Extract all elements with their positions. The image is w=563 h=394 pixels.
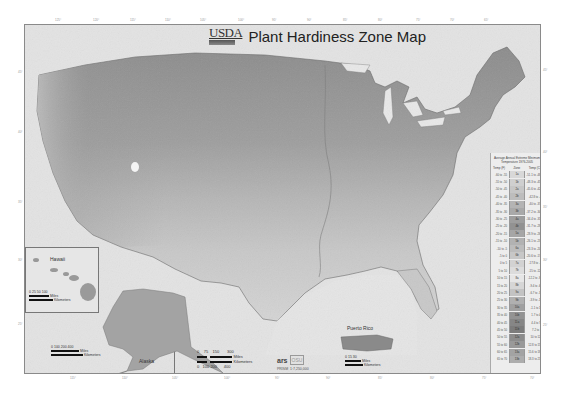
legend-temp-f: 15 to 20 [491,284,509,288]
legend-temp-f: -45 to -40 [491,195,509,199]
legend-temp-f: 20 to 25 [491,291,509,295]
legend-row: -25 to -204b-31.7 to -28.9 [491,223,541,230]
legend-row: -5 to 06b-20.6 to -17.8 [491,252,541,259]
legend-temp-f: -40 to -35 [491,202,509,206]
legend-zone-swatch: 7a [509,260,525,267]
legend-row: 45 to 5011b7.2 to 10 [491,326,541,333]
legend-temp-c: 15.6 to 18.3 [525,350,541,354]
legend-row: 60 to 6513a15.6 to 18.3 [491,348,541,355]
legend-zone-swatch: 5a [509,230,525,237]
legend-row: -15 to -105b-26.1 to -23.3 [491,238,541,245]
alaska-scale: 0 100 200 400 Miles Kilometers [51,345,101,357]
puerto-rico-scale: 0 15 30 Miles Kilometers [345,355,381,367]
legend-row: 15 to 208b-9.4 to -6.7 [491,282,541,289]
legend-zone-swatch: 2b [509,193,525,200]
tick-label: 30° [18,258,23,262]
legend-temp-f: -20 to -15 [491,232,509,236]
legend-temp-c: 12.8 to 15.6 [525,343,541,347]
legend-temp-c: -15 to -12.2 [525,269,541,273]
legend-zone-swatch: 10a [509,304,525,311]
legend-row: -35 to -303b-37.2 to -34.4 [491,208,541,215]
legend-temp-c: -42.8 to -40 [525,195,541,199]
legend-zone-swatch: 3b [509,208,525,215]
legend-temp-c: -31.7 to -28.9 [525,224,541,228]
tick-label: 115° [70,376,76,380]
legend-row: -45 to -402b-42.8 to -40 [491,193,541,200]
tick-label: 105° [200,18,206,22]
legend-zone-swatch: 1a [509,171,525,178]
legend-row: 10 to 158a-12.2 to -9.4 [491,274,541,281]
legend-temp-f: -60 to -55 [491,173,509,177]
legend-zone-swatch: 11b [509,326,525,333]
legend-row: 65 to 7013b18.3 to 21.1 [491,356,541,363]
legend-temp-c: 10 to 12.8 [525,335,541,339]
legend-temp-f: 30 to 35 [491,306,509,310]
hawaii-scale: 0 25 50 100 Miles Kilometers [29,290,71,302]
legend-temp-c: -45.6 to -42.8 [525,187,541,191]
tick-label: 35° [543,205,548,209]
legend-temp-c: 7.2 to 10 [525,328,541,332]
legend-temp-f: 5 to 10 [491,269,509,273]
legend-temp-f: 10 to 15 [491,276,509,280]
legend-temp-c: -12.2 to -9.4 [525,276,541,280]
tick-label: 45° [18,70,23,74]
legend-row: 0 to 57a-17.8 to -15 [491,260,541,267]
legend-zone-swatch: 11a [509,319,525,326]
legend-zone-swatch: 9a [509,289,525,296]
legend-temp-f: -30 to -25 [491,217,509,221]
tick-label: 45° [543,68,548,72]
legend-temp-c: 4.4 to 7.2 [525,321,541,325]
legend-temp-f: 50 to 55 [491,335,509,339]
tick-label: 65° [484,18,489,22]
legend-col-zone: Zone [513,166,520,170]
legend-zone-swatch: 1b [509,179,525,186]
legend-temp-c: -1.1 to 1.7 [525,306,541,310]
legend-temp-f: 40 to 45 [491,321,509,325]
legend-zone-swatch: 13b [509,356,525,363]
legend-zone-swatch: 6a [509,245,525,252]
legend-temp-f: -10 to -5 [491,247,509,251]
legend-temp-f: 65 to 70 [491,357,509,361]
tick-label: 75° [482,376,487,380]
legend-zone-swatch: 2a [509,186,525,193]
tick-label: 70° [530,376,535,380]
legend-temp-f: -25 to -20 [491,224,509,228]
legend-row: 25 to 309b-3.9 to -1.1 [491,297,541,304]
legend-temp-f: 0 to 5 [491,261,509,265]
legend-row: 5 to 107b-15 to -12.2 [491,267,541,274]
tick-label: 115° [130,18,136,22]
legend-zone-swatch: 9b [509,297,525,304]
legend-row: 55 to 6012b12.8 to 15.6 [491,341,541,348]
legend-zone-swatch: 8a [509,275,525,282]
legend-zone-swatch: 4b [509,223,525,230]
legend-temp-c: -17.8 to -15 [525,261,541,265]
legend-zone-swatch: 6b [509,252,525,259]
legend-temp-f: -55 to -50 [491,180,509,184]
tick-label: 105° [172,376,178,380]
legend-temp-c: -20.6 to -17.8 [525,254,541,258]
tick-label: 125° [55,18,61,22]
footer-logos: ars OSU [277,355,304,365]
tick-label: 40° [18,130,23,134]
legend-row: 50 to 5512a10 to 12.8 [491,334,541,341]
tick-label: 90° [326,376,331,380]
legend-row: -30 to -254a-34.4 to -31.7 [491,215,541,222]
tick-label: 75° [416,18,421,22]
legend-temp-f: -15 to -10 [491,239,509,243]
legend-temp-c: -34.4 to -31.7 [525,217,541,221]
ars-logo: ars [277,357,288,364]
legend-row: -60 to -551a-51.1 to -48.3 [491,171,541,178]
tick-label: 85° [378,376,383,380]
legend-temp-c: -26.1 to -23.3 [525,239,541,243]
legend-zone-swatch: 8b [509,282,525,289]
legend-temp-f: 35 to 40 [491,313,509,317]
legend-zone-swatch: 12a [509,334,525,341]
alaska-label: Alaska [139,358,154,364]
legend-temp-f: -5 to 0 [491,254,509,258]
legend-zone-swatch: 13a [509,349,525,356]
legend-zone-swatch: 7b [509,267,525,274]
usda-logo-text: USDA [209,27,242,39]
legend-temp-c: -6.7 to -3.9 [525,291,541,295]
tick-label: 40° [543,150,548,154]
main-scale-bar: 0 75 150 300 Miles Kilometers 0 100 200 … [197,349,252,369]
